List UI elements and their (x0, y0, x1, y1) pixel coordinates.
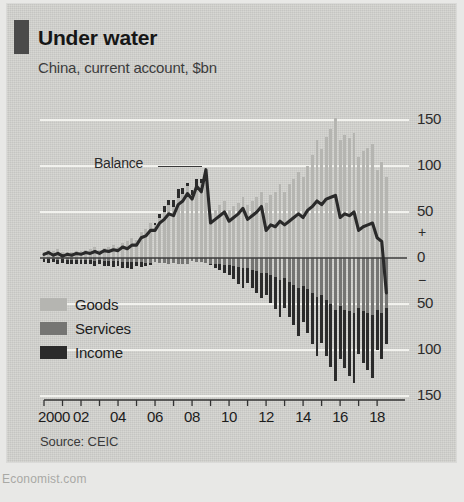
legend-item: Goods (40, 292, 131, 316)
x-tick-label: 2000 (38, 408, 70, 425)
x-tick-label: 02 (73, 408, 89, 425)
legend-swatch (40, 322, 67, 335)
legend-label: Goods (75, 296, 118, 313)
x-tick-label: 06 (147, 408, 163, 425)
legend-item: Income (40, 340, 131, 364)
x-axis-labels: 2000020406081012141618 (7, 4, 456, 462)
legend-swatch (40, 346, 67, 359)
chart-legend: GoodsServicesIncome (40, 292, 131, 364)
x-tick-label: 04 (110, 408, 126, 425)
legend-item: Services (40, 316, 131, 340)
source-note: Source: CEIC (40, 434, 118, 449)
balance-annotation-label: Balance (94, 155, 143, 171)
legend-label: Services (75, 320, 131, 337)
x-tick-label: 14 (295, 408, 311, 425)
x-tick-label: 16 (332, 408, 348, 425)
balance-annotation-leader-line (158, 166, 202, 167)
chart-screenshot: Under water China, current account, $bn … (0, 0, 464, 502)
legend-label: Income (75, 344, 123, 361)
x-tick-label: 08 (184, 408, 200, 425)
footer-watermark: Economist.com (2, 472, 87, 486)
x-tick-label: 18 (369, 408, 385, 425)
legend-swatch (40, 298, 67, 311)
x-tick-label: 10 (221, 408, 237, 425)
chart-card: Under water China, current account, $bn … (7, 4, 456, 462)
x-tick-label: 12 (258, 408, 274, 425)
